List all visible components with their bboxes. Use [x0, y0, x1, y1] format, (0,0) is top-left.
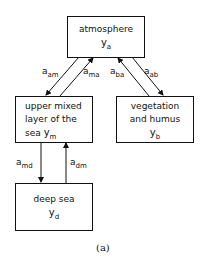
- label-a-ba: aba: [110, 66, 124, 80]
- atmosphere-box: atmosphere ya: [67, 16, 145, 58]
- atmosphere-label: atmosphere: [68, 23, 144, 36]
- label-a-md: amd: [16, 157, 33, 171]
- vegetation-line-2: and humus: [117, 113, 193, 126]
- label-a-ma: ama: [83, 66, 100, 80]
- figure-caption: (a): [96, 242, 110, 253]
- upper-mixed-line-1: upper mixed: [25, 100, 92, 113]
- upper-mixed-line-3: sea ym: [25, 126, 92, 144]
- upper-mixed-layer-box: upper mixed layer of the sea ym: [15, 96, 93, 143]
- deep-sea-box: deep sea yd: [15, 183, 93, 231]
- upper-mixed-line-2: layer of the: [25, 113, 92, 126]
- deep-sea-symbol: yd: [16, 206, 92, 224]
- vegetation-symbol: yb: [117, 126, 193, 144]
- deep-sea-label: deep sea: [16, 193, 92, 206]
- vegetation-line-1: vegetation: [117, 100, 193, 113]
- atmosphere-symbol: ya: [68, 36, 144, 54]
- label-a-ab: aab: [144, 66, 158, 80]
- label-a-dm: adm: [70, 157, 87, 171]
- vegetation-humus-box: vegetation and humus yb: [116, 96, 194, 143]
- label-a-am: aam: [42, 66, 59, 80]
